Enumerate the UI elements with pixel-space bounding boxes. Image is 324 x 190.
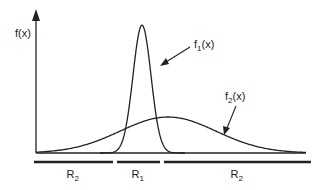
region-label-1: R1 xyxy=(132,168,145,183)
curve-f2-label: f2(x) xyxy=(225,90,245,105)
probability-density-diagram: f(x) f1(x) f2(x) R2R1R2 xyxy=(0,0,324,190)
curve-f2 xyxy=(36,117,306,152)
curve-f2-pointer xyxy=(227,106,236,128)
curve-f1-label: f1(x) xyxy=(194,38,214,53)
y-axis-arrow-icon xyxy=(32,9,40,21)
region-label-2: R2 xyxy=(231,168,244,183)
curve-f2-arrowhead-icon xyxy=(223,126,230,135)
y-axis-label: f(x) xyxy=(15,27,31,39)
curve-f1-pointer xyxy=(166,47,190,62)
region-bars: R2R1R2 xyxy=(34,162,311,183)
curve-f1-arrowhead-icon xyxy=(160,58,169,66)
region-label-0: R2 xyxy=(67,168,80,183)
